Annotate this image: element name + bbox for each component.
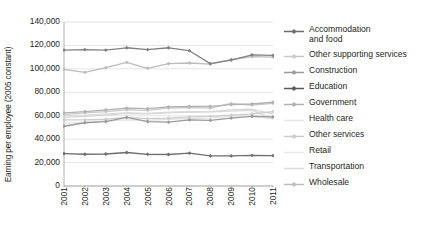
legend-swatch-icon xyxy=(283,25,305,38)
y-axis-tick-label: 100,000 xyxy=(16,63,60,73)
data-point-marker xyxy=(208,154,212,158)
y-axis-tick-label: 120,000 xyxy=(16,39,60,49)
legend-swatch-icon xyxy=(283,82,305,95)
legend-label: Retail xyxy=(309,145,331,156)
y-axis-tick-label: 60,000 xyxy=(16,110,60,120)
data-point-marker xyxy=(63,68,66,72)
legend-label: Education xyxy=(309,81,347,92)
series-line xyxy=(64,48,273,64)
data-point-marker xyxy=(104,152,108,156)
x-axis-tick-labels: 2001200220032004200520062007200820092010… xyxy=(63,185,272,229)
legend-swatch-icon xyxy=(283,162,305,175)
legend-item[interactable]: Other supporting services xyxy=(283,49,435,64)
data-point-marker xyxy=(167,46,171,50)
x-axis-tick-label: 2011 xyxy=(268,187,278,205)
y-axis-tick-label: 0 xyxy=(16,180,60,190)
data-point-marker xyxy=(125,46,129,50)
legend-item[interactable]: Accommodation and food xyxy=(283,24,435,48)
data-point-marker xyxy=(63,48,66,52)
data-point-marker xyxy=(271,154,274,158)
legend-swatch-icon xyxy=(283,178,305,191)
legend-item[interactable]: Government xyxy=(283,97,435,112)
legend-label: Accommodation and food xyxy=(309,24,371,44)
chart-figure: Earning per employee (2005 constant) 140… xyxy=(0,0,435,229)
x-axis-tick-label: 2003 xyxy=(101,187,111,206)
data-point-marker xyxy=(83,48,87,52)
legend-label: Other services xyxy=(309,129,364,140)
series-accommodation-and-food xyxy=(63,151,274,158)
data-point-marker xyxy=(167,62,171,66)
data-point-marker xyxy=(125,116,129,120)
data-point-marker xyxy=(146,66,150,70)
data-point-marker xyxy=(146,152,150,156)
data-point-marker xyxy=(250,154,254,158)
data-point-marker xyxy=(188,61,192,65)
legend-label: Construction xyxy=(309,65,357,76)
data-point-marker xyxy=(146,48,150,52)
legend-item[interactable]: Wholesale xyxy=(283,177,435,192)
y-axis-tick-label: 140,000 xyxy=(16,16,60,26)
x-axis-tick-label: 2007 xyxy=(184,187,194,206)
data-point-marker xyxy=(167,120,171,124)
legend-item[interactable]: Other services xyxy=(283,129,435,144)
data-point-marker xyxy=(83,152,87,156)
legend-item[interactable]: Health care xyxy=(283,113,435,128)
data-point-marker xyxy=(208,119,212,123)
y-axis-tick-labels: 140,000120,000100,00080,00060,00040,0002… xyxy=(14,0,60,229)
x-axis-tick-label: 2006 xyxy=(164,187,174,206)
legend-item[interactable]: Transportation xyxy=(283,161,435,176)
x-axis-tick-label: 2002 xyxy=(80,187,90,206)
data-point-marker xyxy=(104,120,108,124)
data-point-marker xyxy=(63,124,66,128)
x-axis-tick-label: 2008 xyxy=(205,187,215,206)
data-point-marker xyxy=(63,152,66,156)
data-point-marker xyxy=(250,114,254,118)
legend-swatch-icon xyxy=(283,66,305,79)
legend-swatch-icon xyxy=(283,98,305,111)
legend-label: Health care xyxy=(309,113,353,124)
data-point-marker xyxy=(83,121,87,125)
data-point-marker xyxy=(104,48,108,52)
data-point-marker xyxy=(125,61,129,65)
x-axis-tick-label: 2001 xyxy=(59,187,69,206)
x-axis-tick-label: 2004 xyxy=(122,187,132,206)
y-axis-tick-label: 80,000 xyxy=(16,86,60,96)
data-point-marker xyxy=(83,70,87,74)
legend-swatch-icon xyxy=(283,50,305,63)
legend-item[interactable]: Retail xyxy=(283,145,435,160)
data-point-marker xyxy=(188,151,192,155)
legend-item[interactable]: Education xyxy=(283,81,435,96)
data-point-marker xyxy=(271,110,274,114)
legend-swatch-icon xyxy=(283,130,305,143)
legend-label: Government xyxy=(309,97,356,108)
legend-swatch-icon xyxy=(283,146,305,159)
legend-swatch-icon xyxy=(283,114,305,127)
data-point-marker xyxy=(229,154,233,158)
y-axis-tick-label: 20,000 xyxy=(16,157,60,167)
legend-label: Other supporting services xyxy=(309,49,407,60)
y-axis-tick-label: 40,000 xyxy=(16,133,60,143)
data-point-marker xyxy=(125,151,129,155)
x-axis-tick-label: 2009 xyxy=(226,187,236,206)
chart-legend: Accommodation and foodOther supporting s… xyxy=(283,24,435,193)
x-axis-tick-label: 2005 xyxy=(143,187,153,206)
plot-area xyxy=(63,21,272,185)
legend-label: Wholesale xyxy=(309,177,349,188)
data-point-marker xyxy=(63,118,66,122)
chart-svg xyxy=(63,21,274,187)
x-axis-tick-label: 2010 xyxy=(247,187,257,206)
legend-item[interactable]: Construction xyxy=(283,65,435,80)
data-point-marker xyxy=(167,153,171,157)
legend-label: Transportation xyxy=(309,161,364,172)
